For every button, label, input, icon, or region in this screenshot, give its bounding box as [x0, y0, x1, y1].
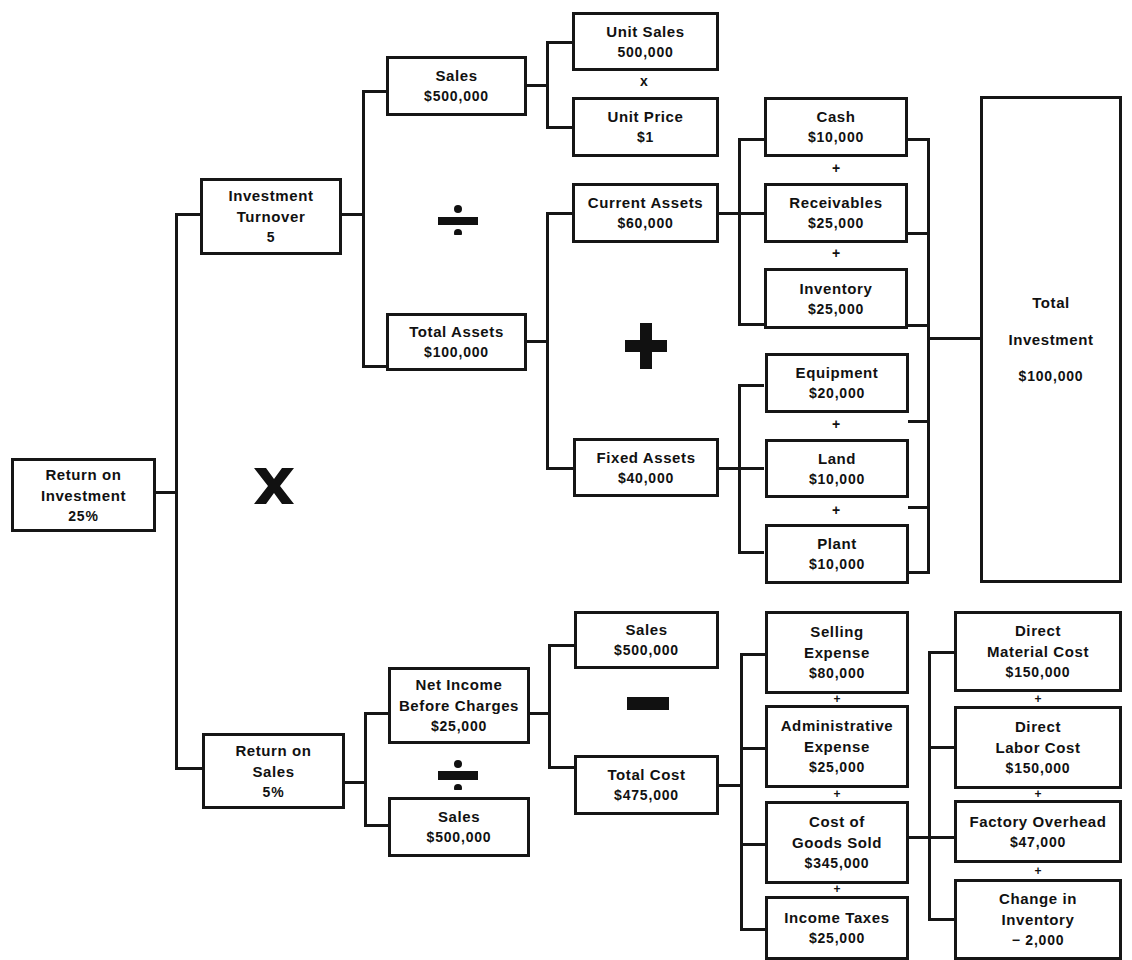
connector — [546, 467, 574, 470]
divide-operator-icon — [437, 760, 479, 790]
node-label: Administrative — [781, 715, 894, 736]
connector — [362, 365, 387, 368]
node-value: $25,000 — [808, 299, 864, 320]
node-label: Investment — [1008, 329, 1093, 350]
node-value: $475,000 — [614, 785, 679, 806]
node-label: Investment — [41, 485, 126, 506]
node-value: 25% — [68, 506, 98, 527]
node-inventory: Inventory $25,000 — [764, 268, 908, 329]
connector — [546, 126, 573, 129]
connector — [908, 836, 954, 839]
node-value: $10,000 — [808, 127, 864, 148]
node-label: Fixed Assets — [596, 447, 695, 468]
node-value: $40,000 — [618, 468, 674, 489]
node-value: $47,000 — [1010, 832, 1066, 853]
connector — [362, 90, 387, 93]
node-label: Total Cost — [607, 764, 685, 785]
node-label: Sales — [252, 761, 294, 782]
connector — [907, 138, 929, 141]
node-label: Net Income — [416, 674, 503, 695]
connector — [738, 551, 764, 554]
node-label: Selling — [810, 621, 863, 642]
connector — [928, 651, 931, 921]
node-income-taxes: Income Taxes $25,000 — [765, 896, 909, 960]
connector — [546, 212, 573, 215]
node-value: $1 — [637, 127, 654, 148]
connector — [740, 747, 766, 750]
node-value: $80,000 — [809, 663, 865, 684]
node-label: Return on — [45, 464, 121, 485]
plus-operator-small: + — [826, 503, 846, 517]
node-return-on-sales: Return on Sales 5% — [202, 733, 345, 809]
connector — [740, 653, 743, 931]
node-label: Expense — [804, 736, 870, 757]
node-net-income-before-charges: Net Income Before Charges $25,000 — [388, 667, 530, 744]
node-value: 5% — [263, 782, 285, 803]
node-label: Inventory — [800, 278, 873, 299]
node-value: $345,000 — [805, 853, 870, 874]
node-value: $25,000 — [809, 757, 865, 778]
node-change-in-inventory: Change in Inventory − 2,000 — [954, 879, 1122, 960]
node-value: $500,000 — [614, 640, 679, 661]
connector — [928, 651, 954, 654]
node-total-cost: Total Cost $475,000 — [574, 755, 719, 815]
node-label: Goods Sold — [792, 832, 882, 853]
node-label: Change in — [999, 888, 1077, 909]
node-unit-sales: Unit Sales 500,000 — [572, 12, 719, 71]
connector — [738, 138, 741, 326]
node-land: Land $10,000 — [765, 439, 909, 498]
node-sales-turnover: Sales $500,000 — [386, 56, 527, 116]
connector — [738, 384, 764, 387]
node-label: Income Taxes — [784, 907, 889, 928]
node-label: Land — [818, 448, 856, 469]
node-value: $25,000 — [431, 716, 487, 737]
connector — [546, 41, 549, 129]
plus-operator-small: + — [1028, 864, 1048, 878]
node-label: Return on — [235, 740, 311, 761]
node-label: Plant — [817, 533, 857, 554]
node-value: $500,000 — [427, 827, 492, 848]
node-plant: Plant $10,000 — [765, 524, 909, 584]
node-label: Receivables — [789, 192, 882, 213]
node-direct-material-cost: Direct Material Cost $150,000 — [954, 611, 1122, 692]
connector — [340, 213, 364, 216]
node-value: $100,000 — [1019, 366, 1084, 387]
node-value: 5 — [267, 227, 276, 248]
plus-operator-small: + — [827, 787, 847, 801]
node-label: Equipment — [796, 362, 879, 383]
node-value: $10,000 — [809, 469, 865, 490]
multiply-operator-small: x — [634, 74, 654, 88]
node-investment-turnover: Investment Turnover 5 — [200, 178, 342, 255]
node-label: Cash — [816, 106, 855, 127]
connector — [928, 746, 954, 749]
node-label: Material Cost — [987, 641, 1089, 662]
node-value: $500,000 — [424, 86, 489, 107]
node-return-on-investment: Return on Investment 25% — [11, 458, 156, 532]
connector — [740, 928, 766, 931]
connector — [548, 644, 551, 769]
node-value: $150,000 — [1006, 758, 1071, 779]
connector — [548, 766, 575, 769]
node-selling-expense: Selling Expense $80,000 — [765, 611, 909, 694]
node-label: Direct — [1015, 716, 1061, 737]
node-current-assets: Current Assets $60,000 — [572, 183, 719, 243]
connector — [175, 213, 201, 216]
node-value: $25,000 — [808, 213, 864, 234]
node-value: $10,000 — [809, 554, 865, 575]
connector — [546, 212, 549, 470]
plus-operator-small: + — [826, 417, 846, 431]
connector — [907, 232, 929, 235]
node-label: Unit Sales — [606, 21, 685, 42]
node-total-investment: Total Investment $100,000 — [980, 96, 1122, 583]
node-label: Unit Price — [607, 106, 683, 127]
connector — [362, 90, 365, 368]
connector — [364, 712, 389, 715]
node-value: 500,000 — [617, 42, 673, 63]
plus-operator-small: + — [826, 161, 846, 175]
plus-operator-small: + — [1028, 787, 1048, 801]
connector — [175, 213, 178, 770]
node-unit-price: Unit Price $1 — [572, 97, 719, 157]
connector — [738, 323, 764, 326]
node-value: $60,000 — [617, 213, 673, 234]
node-factory-overhead: Factory Overhead $47,000 — [954, 800, 1122, 863]
